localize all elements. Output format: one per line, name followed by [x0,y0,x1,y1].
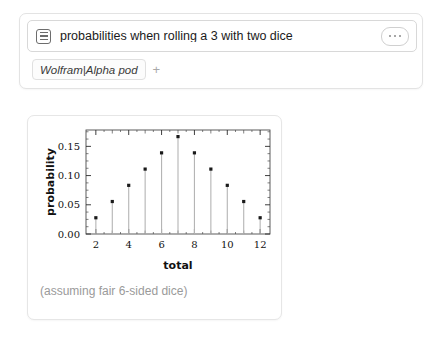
probability-chart: 246810120.000.050.100.15totalprobability [28,122,283,277]
svg-text:0.05: 0.05 [58,199,80,210]
chart-svg: 246810120.000.050.100.15totalprobability [28,122,283,277]
list-icon [36,29,51,44]
y-axis-title: probability [44,148,57,216]
add-pod-button[interactable]: + [153,63,161,76]
svg-text:6: 6 [158,239,164,250]
svg-text:4: 4 [126,239,132,250]
svg-text:10: 10 [221,239,234,250]
svg-text:12: 12 [254,239,267,250]
query-input[interactable]: probabilities when rolling a 3 with two … [60,30,381,43]
svg-text:0.10: 0.10 [58,170,80,181]
query-card: probabilities when rolling a 3 with two … [19,13,423,89]
x-axis-title: total [163,259,192,272]
svg-text:2: 2 [93,239,99,250]
query-input-row[interactable]: probabilities when rolling a 3 with two … [27,20,417,52]
pod-chip-label: Wolfram|Alpha pod [40,64,138,76]
result-card: 246810120.000.050.100.15totalprobability… [27,115,282,320]
chart-caption: (assuming fair 6-sided dice) [40,284,187,298]
ellipsis-icon[interactable] [381,27,409,46]
svg-text:0.00: 0.00 [58,229,80,240]
pod-chip-row: Wolfram|Alpha pod + [32,59,160,80]
svg-text:0.15: 0.15 [58,141,80,152]
wolfram-alpha-pod-chip[interactable]: Wolfram|Alpha pod [32,59,146,80]
svg-text:8: 8 [191,239,197,250]
